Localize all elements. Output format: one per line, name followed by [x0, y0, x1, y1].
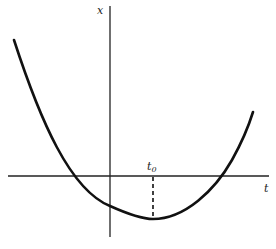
x-axis-label: x	[97, 4, 104, 17]
curve-x-of-t	[14, 40, 253, 219]
diagram-canvas: x t t0	[0, 0, 276, 249]
t0-label: t0	[147, 160, 157, 174]
t-axis-label: t	[264, 182, 269, 195]
